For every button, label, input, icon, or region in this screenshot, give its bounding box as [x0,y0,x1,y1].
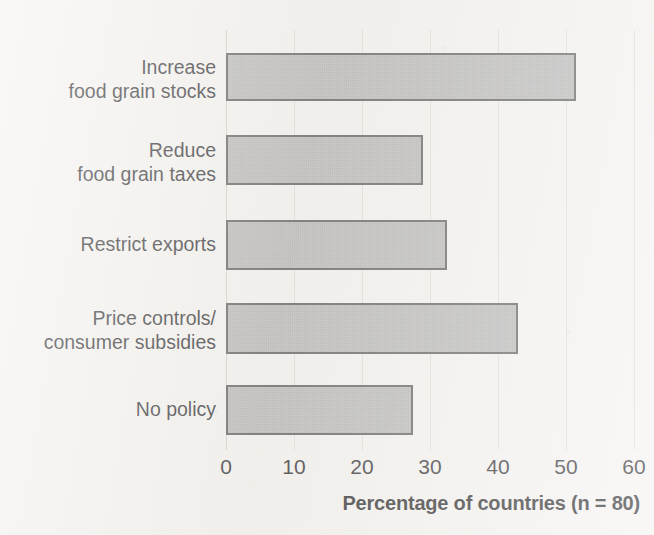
category-label-line2: food grain stocks [8,80,216,104]
xtick-label-10: 10 [282,455,305,479]
category-label-line2: consumer subsidies [8,331,216,355]
xtick-label-40: 40 [486,455,509,479]
category-label-line2: food grain taxes [8,163,216,187]
bar-increase-food-grain-stocks [226,53,576,101]
category-label-line1: Increase [8,56,216,80]
x-axis-title: Percentage of countries (n = 80) [0,492,640,515]
category-label-price-controls-subsidies: Price controls/ consumer subsidies [8,307,216,354]
category-label-no-policy: No policy [8,398,216,422]
category-label-line1: Reduce [8,139,216,163]
xtick-label-30: 30 [418,455,441,479]
category-label-reduce-food-grain-taxes: Reduce food grain taxes [8,139,216,186]
plot-area [226,30,634,450]
category-label-line1: No policy [8,398,216,422]
bar-no-policy [226,385,413,435]
category-label-increase-food-grain-stocks: Increase food grain stocks [8,56,216,103]
category-label-line1: Restrict exports [8,233,216,257]
xtick-label-60: 60 [622,455,645,479]
bar-restrict-exports [226,220,447,270]
xtick-label-0: 0 [220,455,232,479]
bar-chart-figure: Increase food grain stocks Reduce food g… [0,0,654,535]
xtick-label-20: 20 [350,455,373,479]
category-label-restrict-exports: Restrict exports [8,233,216,257]
category-label-line1: Price controls/ [8,307,216,331]
bar-reduce-food-grain-taxes [226,135,423,185]
bar-price-controls-subsidies [226,303,518,354]
gridline-60 [634,30,635,450]
xtick-label-50: 50 [554,455,577,479]
